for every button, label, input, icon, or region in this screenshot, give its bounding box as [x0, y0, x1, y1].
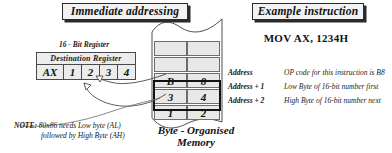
memory-caption-line-2: Memory — [177, 136, 215, 148]
memory-caption: Byte - Organised Memory — [140, 124, 252, 148]
memory-cell-low-2: 2 — [187, 105, 220, 120]
register-caption: 16 - Bit Register — [41, 40, 127, 49]
memory-caption-line-1: Byte - Organised — [158, 124, 234, 136]
note-block: NOTE: 80x86 needs Low byte (AL) followed… — [14, 121, 125, 140]
annotation-address-plus-2: Address + 2 High Byte of 16-bit number n… — [228, 89, 381, 107]
memory-cell-low-0: 8 — [187, 73, 220, 88]
register-name-cell: AX — [37, 65, 64, 80]
diagram-canvas: Immediate addressing Example instruction… — [0, 0, 392, 153]
annotation-text-2: High Byte of 16-bit number next — [284, 96, 381, 105]
note-line-2: followed by High Byte (AH) — [41, 131, 125, 141]
instruction-text: MOV AX, 1234H — [244, 32, 368, 44]
annotation-label-2: Address + 2 — [228, 96, 280, 105]
note-line-1: 80x86 needs Low byte (AL) — [39, 121, 121, 130]
memory-cell-low-1: 4 — [187, 89, 220, 104]
memory-blank-cell: . — [187, 41, 220, 56]
note-key: NOTE: — [14, 121, 37, 130]
example-instruction-title: Example instruction — [252, 3, 364, 20]
memory-blank-cell: . — [187, 57, 220, 72]
